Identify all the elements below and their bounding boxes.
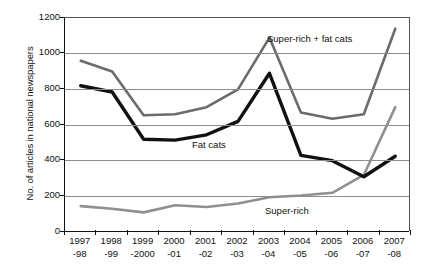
line-chart: No. of articles in national newspapers 1… bbox=[0, 0, 426, 273]
series-label-fat-cats: Fat cats bbox=[192, 139, 226, 150]
x-axis-label-line: -08 bbox=[371, 248, 417, 261]
x-axis-labels: 1997-981998-991999-20002000-012001-02200… bbox=[64, 235, 410, 271]
y-tick-label-400: 400 bbox=[20, 153, 60, 164]
gridline-800 bbox=[65, 89, 409, 90]
x-axis-label-line: 2007 bbox=[371, 235, 417, 248]
x-axis-label: 2007-08 bbox=[371, 235, 417, 260]
series-label-super-rich-plus-fat-cats: Super-rich + fat cats bbox=[267, 33, 352, 44]
y-tick-label-1000: 1000 bbox=[20, 46, 60, 57]
x-axis-line bbox=[65, 231, 409, 232]
gridline-600 bbox=[65, 125, 409, 126]
gridline-1000 bbox=[65, 53, 409, 54]
gridline-400 bbox=[65, 160, 409, 161]
y-tick-label-600: 600 bbox=[20, 118, 60, 129]
series-label-super-rich: Super-rich bbox=[265, 205, 309, 216]
gridline-200 bbox=[65, 196, 409, 197]
y-tick-label-800: 800 bbox=[20, 82, 60, 93]
plot-area bbox=[64, 17, 410, 231]
y-tick-label-0: 0 bbox=[20, 225, 60, 236]
y-tick-label-1200: 1200 bbox=[20, 11, 60, 22]
y-tick-label-200: 200 bbox=[20, 189, 60, 200]
